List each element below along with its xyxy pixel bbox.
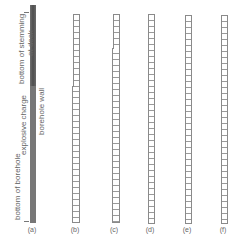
explosive-charge-fill <box>30 86 36 223</box>
borehole-diagram: bottom of stemming at deck explosive cha… <box>0 0 237 239</box>
bottom-arrow-icon <box>24 221 29 222</box>
panel-label-f: (f) <box>213 226 233 233</box>
charge-column <box>221 15 228 224</box>
panel-label-d: (d) <box>140 226 160 233</box>
panel-label-c: (c) <box>104 226 124 233</box>
charge-column-upper <box>73 14 80 87</box>
panel-label-a: (a) <box>22 226 42 233</box>
charge-column <box>148 14 155 224</box>
charge-column-upper <box>113 14 120 49</box>
label-bottom-of-borehole: bottom of borehole <box>14 153 22 220</box>
panel-label-e: (e) <box>177 226 197 233</box>
panel-label-b: (b) <box>65 226 85 233</box>
label-explosive-charge: explosive charge <box>20 95 28 155</box>
label-bottom-of-stemming: bottom of stemming <box>18 14 26 84</box>
label-at-deck: at deck <box>27 30 35 56</box>
charge-column-lower <box>112 48 120 223</box>
charge-column <box>185 15 192 224</box>
label-borehole-wall: borehole wall <box>38 88 46 135</box>
charge-column-lower <box>72 86 80 223</box>
